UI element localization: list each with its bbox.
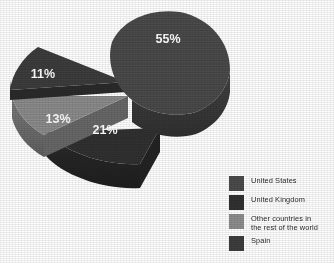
legend-item-label-line2: the rest of the world [251, 224, 318, 233]
legend-item-united-states[interactable]: United States [229, 176, 334, 191]
legend-swatch-icon [229, 236, 244, 251]
legend-item-other-countries[interactable]: Other countries in the rest of the world [229, 214, 334, 232]
legend-swatch-icon [229, 214, 244, 229]
pie-slice-united-states[interactable] [110, 11, 230, 136]
legend-swatch-icon [229, 176, 244, 191]
pie-label-united-states: 55% [155, 32, 180, 46]
legend-item-label: Other countries in the rest of the world [251, 214, 318, 232]
pie-chart-svg: 55% 21% 13% 11% [0, 0, 240, 200]
pie-label-spain: 11% [31, 67, 55, 81]
pie-slice-spain[interactable] [10, 47, 126, 102]
legend-item-label: Spain [251, 236, 270, 246]
legend-item-label: United States [251, 176, 297, 186]
legend-item-united-kingdom[interactable]: United Kingdom [229, 195, 334, 210]
pie-label-united-kingdom: 21% [92, 123, 117, 137]
pie-slice-united-states-texture [110, 11, 230, 114]
pie-chart-figure: 55% 21% 13% 11% United States United Kin… [0, 0, 334, 263]
pie-chart-plot: 55% 21% 13% 11% [0, 0, 240, 200]
legend-item-spain[interactable]: Spain [229, 236, 334, 251]
pie-label-other-countries: 13% [45, 112, 70, 126]
legend-swatch-icon [229, 195, 244, 210]
chart-legend: United States United Kingdom Other count… [229, 176, 334, 255]
legend-item-label: United Kingdom [251, 195, 305, 205]
